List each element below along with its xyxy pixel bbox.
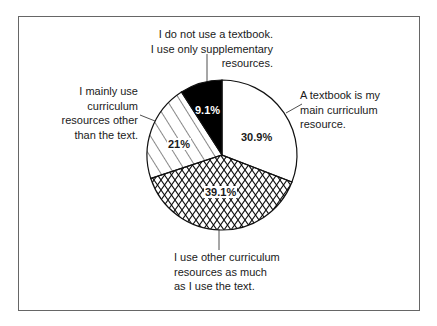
label-no-textbook: I do not use a textbook. I use only supp… [140,27,273,71]
pct-other-as-much: 39.1% [204,186,237,198]
pct-mainly-other: 21% [167,138,191,150]
pie-slices [147,80,297,230]
pct-no-textbook: 9.1% [195,104,220,116]
label-other-as-much: I use other curriculum resources as much… [174,250,280,294]
leader-line-mainly-other [140,115,155,121]
label-mainly-other: I mainly use curriculum resources other … [56,84,138,142]
pct-textbook-main: 30.9% [241,131,272,143]
label-textbook-main: A textbook is my main curriculum resourc… [300,88,380,132]
